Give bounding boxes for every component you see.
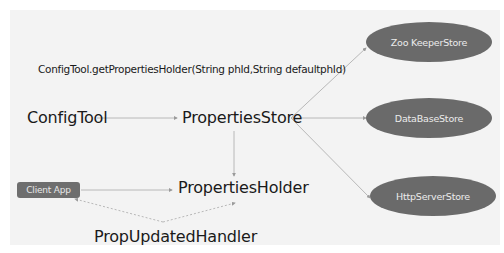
node-properties-holder: PropertiesHolder	[178, 178, 309, 197]
node-properties-store: PropertiesStore	[182, 108, 302, 127]
database-store-label: DataBaseStore	[366, 113, 492, 124]
method-caption: ConfigTool.getPropertiesHolder(String ph…	[38, 63, 346, 75]
dashed-handler-to-holder	[163, 203, 235, 222]
dashed-handler-to-client	[75, 199, 163, 222]
node-httpserver-store: HttpServerStore	[370, 176, 496, 216]
arrow-store-to-zookeeper	[291, 48, 366, 118]
node-client-app: Client App	[17, 182, 80, 198]
node-prop-updated-handler: PropUpdatedHandler	[94, 227, 257, 246]
node-zookeeper-store: Zoo KeeperStore	[366, 22, 492, 62]
zookeeper-store-label: Zoo KeeperStore	[366, 37, 492, 48]
node-config-tool: ConfigTool	[27, 108, 107, 127]
httpserver-store-label: HttpServerStore	[370, 191, 496, 202]
node-database-store: DataBaseStore	[366, 98, 492, 138]
